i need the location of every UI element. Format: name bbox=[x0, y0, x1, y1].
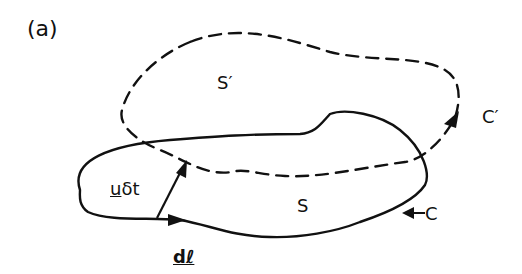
contour-c-label: C bbox=[425, 205, 438, 223]
contour-c-prime-label: C′ bbox=[482, 108, 499, 126]
contour-c-direction-arrowhead bbox=[402, 207, 414, 219]
surface-s-prime-label: S′ bbox=[217, 74, 233, 92]
line-element-label: dℓ bbox=[173, 248, 194, 266]
velocity-displacement-label: uδt bbox=[110, 180, 140, 198]
line-element-arrowhead bbox=[168, 214, 186, 226]
contour-c-prime-direction-arrowhead bbox=[444, 111, 459, 128]
panel-label: (a) bbox=[27, 18, 58, 40]
surface-s-label: S bbox=[297, 197, 308, 215]
contour-c-solid bbox=[78, 112, 426, 237]
displacement-arrow bbox=[157, 167, 183, 218]
diagram-canvas bbox=[0, 0, 522, 274]
contour-c-prime-dashed bbox=[121, 33, 458, 176]
